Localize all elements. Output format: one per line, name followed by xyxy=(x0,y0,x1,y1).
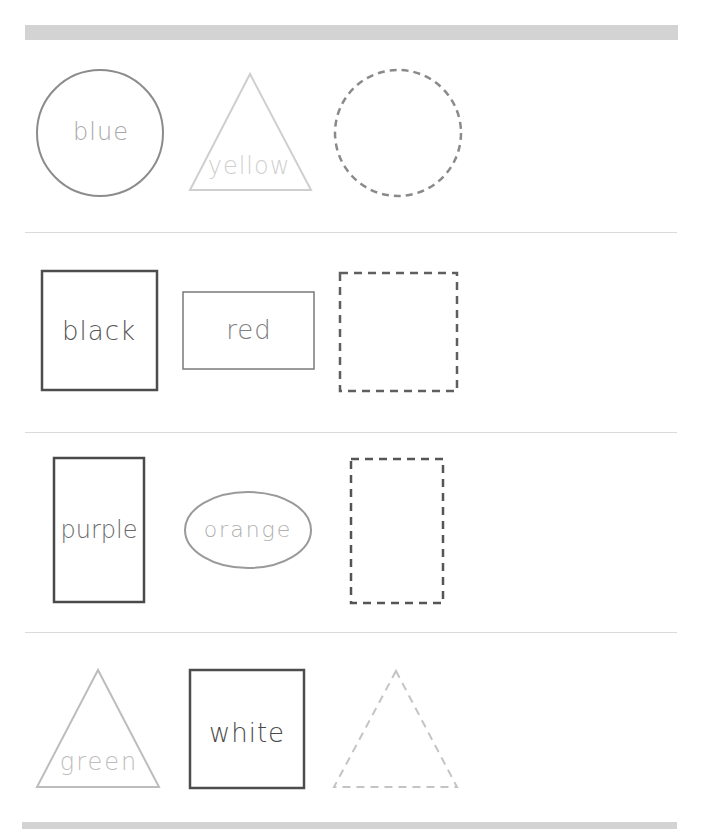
label-red: red xyxy=(226,317,272,343)
label-blue: blue xyxy=(73,120,129,144)
label-green: green xyxy=(60,750,138,774)
label-black: black xyxy=(62,318,136,344)
label-yellow: yellow xyxy=(208,154,291,178)
label-purple: purple xyxy=(61,518,138,542)
dashed-rectangle-trace-shape[interactable] xyxy=(351,459,443,603)
label-orange: orange xyxy=(204,519,293,541)
dashed-square-trace-shape[interactable] xyxy=(340,273,457,391)
dashed-circle-trace-shape[interactable] xyxy=(335,70,461,196)
label-white: white xyxy=(209,720,285,746)
dashed-triangle-trace-shape[interactable] xyxy=(334,671,457,787)
